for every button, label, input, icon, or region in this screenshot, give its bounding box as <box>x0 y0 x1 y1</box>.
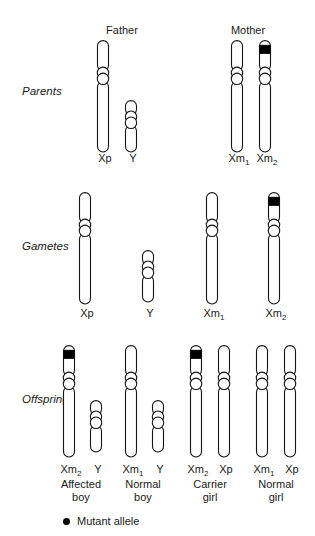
offspring-xm1-label: Xm1 <box>123 463 144 475</box>
offspring-y-2-label: Y <box>156 463 163 475</box>
offspring-xm2-b-label: Xm2 <box>188 463 209 475</box>
row-label-gametes: Gametes <box>22 240 69 252</box>
offspring-xm2-b-mutant-allele-band <box>191 350 202 359</box>
offspring-xm2-label: Xm2 <box>61 463 82 475</box>
gamete-y-label: Y <box>146 307 153 319</box>
father-x-label: Xp <box>98 152 111 164</box>
offspring-xp-b-chromosome <box>282 345 299 459</box>
row-label-parents: Parents <box>22 85 62 97</box>
offspring-xp-label: Xp <box>219 463 232 475</box>
gamete-xm2-mutant-allele-band <box>269 197 280 206</box>
offspring-xm2-mutant-allele-band <box>64 350 75 359</box>
pedigree-diagram: ParentsGametesOffspringFatherMotherXpYXm… <box>0 0 315 536</box>
header-mother: Mother <box>231 24 265 36</box>
gamete-xp-chromosome <box>77 192 94 306</box>
mother-x2-chromosome <box>257 40 274 154</box>
offspring-xm1-b-chromosome <box>254 345 271 459</box>
mutant-allele-dot-icon <box>63 518 70 525</box>
offspring-xm2-chromosome <box>61 345 78 459</box>
father-x-chromosome <box>95 40 112 154</box>
offspring-xm2-b-chromosome <box>188 345 205 459</box>
offspring-xm1-b-label: Xm1 <box>254 463 275 475</box>
offspring-y-label: Y <box>94 463 101 475</box>
offspring-xm1-chromosome <box>123 345 140 459</box>
mother-x2-mutant-allele-band <box>260 45 271 54</box>
gamete-xm2-chromosome <box>266 192 283 306</box>
phenotype-normal-girl: Normalgirl <box>258 478 293 503</box>
header-father: Father <box>106 24 138 36</box>
mother-x2-label: Xm2 <box>257 152 278 164</box>
offspring-y-chromosome <box>88 400 105 454</box>
gamete-xm1-chromosome <box>204 192 221 306</box>
phenotype-carrier-girl: Carriergirl <box>193 478 227 503</box>
phenotype-affected-boy: Affectedboy <box>61 478 101 503</box>
gamete-xm1-label: Xm1 <box>204 307 225 319</box>
phenotype-normal-boy: Normalboy <box>125 478 160 503</box>
gamete-xm2-label: Xm2 <box>266 307 287 319</box>
legend: Mutant allele <box>63 515 139 527</box>
legend-label: Mutant allele <box>77 515 139 527</box>
offspring-xp-chromosome <box>216 345 233 459</box>
offspring-xp-b-label: Xp <box>285 463 298 475</box>
mother-x1-chromosome <box>229 40 246 154</box>
father-y-label: Y <box>129 152 136 164</box>
gamete-y-chromosome <box>140 250 157 304</box>
mother-x1-label: Xm1 <box>229 152 250 164</box>
offspring-y-2-chromosome <box>150 400 167 454</box>
gamete-xp-label: Xp <box>80 307 93 319</box>
father-y-chromosome <box>123 100 140 154</box>
